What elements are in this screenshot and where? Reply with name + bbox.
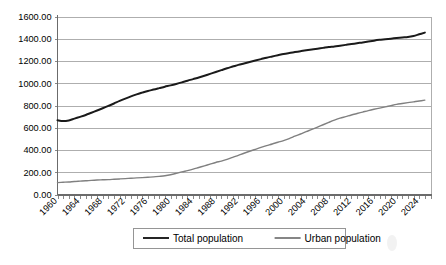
x-tick-label-2012: 2012 <box>331 196 353 218</box>
data-series <box>58 33 425 183</box>
chart-canvas: 0.00200.00400.00600.00800.001000.001200.… <box>0 0 446 265</box>
x-tick-label-1988: 1988 <box>196 196 218 218</box>
legend-label-urban-population: Urban population <box>305 233 381 244</box>
population-line-chart: 0.00200.00400.00600.00800.001000.001200.… <box>0 0 446 265</box>
x-tick-label-2016: 2016 <box>354 196 376 218</box>
legend-label-total-population: Total population <box>173 233 243 244</box>
x-tick-label-2008: 2008 <box>309 196 331 218</box>
y-tick-label-1400: 1400.00 <box>18 34 51 44</box>
series-line-urban-population <box>58 100 425 182</box>
x-tick-label-1980: 1980 <box>150 196 172 218</box>
x-tick-label-2004: 2004 <box>286 196 308 218</box>
y-tick-label-1000: 1000.00 <box>18 79 51 89</box>
scan-artifact <box>387 235 397 251</box>
y-axis-tick-labels: 0.00200.00400.00600.00800.001000.001200.… <box>18 12 51 200</box>
x-tick-label-1972: 1972 <box>105 196 127 218</box>
x-tick-label-2000: 2000 <box>263 196 285 218</box>
x-tick-label-2020: 2020 <box>376 196 398 218</box>
x-tick-label-1964: 1964 <box>60 196 82 218</box>
x-tick-label-2024: 2024 <box>399 196 421 218</box>
y-tick-label-400: 400.00 <box>23 145 51 155</box>
y-tick-label-600: 600.00 <box>23 123 51 133</box>
y-axis <box>55 15 58 196</box>
gridlines <box>58 18 431 196</box>
x-tick-label-1984: 1984 <box>173 196 195 218</box>
x-tick-label-1968: 1968 <box>83 196 105 218</box>
x-axis-tick-labels: 1960196419681972197619801984198819921996… <box>37 196 420 218</box>
y-tick-label-800: 800.00 <box>23 101 51 111</box>
x-tick-label-1976: 1976 <box>128 196 150 218</box>
y-tick-label-1200: 1200.00 <box>18 56 51 66</box>
y-tick-label-1600: 1600.00 <box>18 12 51 22</box>
x-axis <box>58 195 432 199</box>
chart-legend: Total populationUrban population <box>134 229 381 249</box>
series-line-total-population <box>58 33 425 121</box>
y-tick-label-200: 200.00 <box>23 168 51 178</box>
x-tick-label-1992: 1992 <box>218 196 240 218</box>
x-tick-label-1996: 1996 <box>241 196 263 218</box>
scan-smudge <box>387 235 397 251</box>
